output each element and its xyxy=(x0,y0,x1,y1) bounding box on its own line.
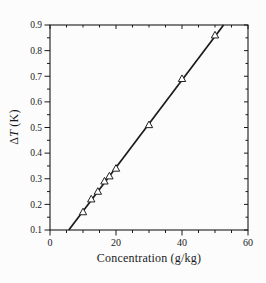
y-tick-label: 0.8 xyxy=(30,46,42,56)
x-tick-label: 0 xyxy=(48,237,53,248)
x-tick-label: 20 xyxy=(111,237,121,248)
x-tick-label: 40 xyxy=(177,237,187,248)
figure: 02040600.10.20.30.40.50.60.70.80.9 Conce… xyxy=(0,0,266,283)
y-axis-title: ΔT (K) xyxy=(7,109,22,144)
data-point-triangle xyxy=(145,121,152,128)
y-tick-label: 0.9 xyxy=(30,20,42,30)
delta-symbol: Δ xyxy=(7,137,21,145)
y-tick-label: 0.4 xyxy=(30,148,42,158)
unit-kelvin: (K) xyxy=(7,109,21,129)
data-point-triangle xyxy=(112,165,119,172)
x-axis-title: Concentration (g/kg) xyxy=(50,251,248,266)
variable-t: T xyxy=(7,130,21,137)
y-tick-label: 0.3 xyxy=(30,174,42,184)
plot-area: 02040600.10.20.30.40.50.60.70.80.9 xyxy=(0,0,266,283)
x-tick-label: 60 xyxy=(243,237,253,248)
y-tick-label: 0.7 xyxy=(30,72,42,82)
y-tick-label: 0.1 xyxy=(30,225,42,235)
y-tick-label: 0.2 xyxy=(30,200,42,210)
y-tick-label: 0.5 xyxy=(30,123,42,133)
y-tick-label: 0.6 xyxy=(30,97,42,107)
